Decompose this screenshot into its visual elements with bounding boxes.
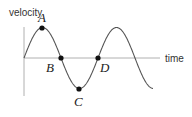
x-axis-label: time	[165, 53, 184, 64]
point-b-dot	[58, 55, 63, 60]
point-c-label: C	[74, 94, 83, 109]
point-a-dot	[39, 25, 44, 30]
point-a-label: A	[37, 10, 46, 25]
point-b-label: B	[46, 60, 54, 75]
point-c-dot	[76, 86, 81, 91]
velocity-time-diagram: velocity time A B C D	[0, 0, 192, 117]
point-d-label: D	[99, 60, 110, 75]
